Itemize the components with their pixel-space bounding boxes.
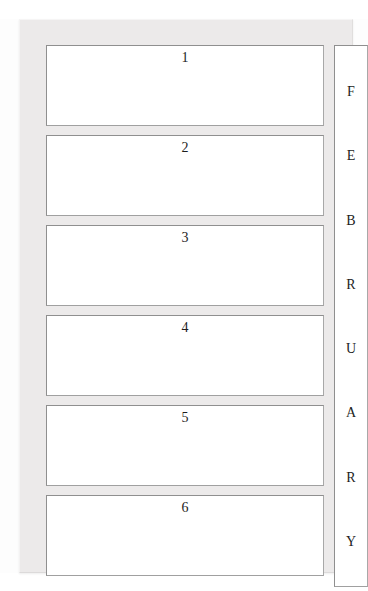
month-letter: R bbox=[335, 277, 367, 293]
month-letter: E bbox=[335, 148, 367, 164]
month-letter: A bbox=[335, 405, 367, 421]
day-number: 5 bbox=[47, 409, 323, 427]
day-box[interactable]: 5 bbox=[46, 405, 324, 486]
scanned-page: 1 2 3 4 5 6 F E B R U A bbox=[0, 0, 368, 591]
page-margin-top bbox=[0, 0, 368, 19]
day-box[interactable]: 4 bbox=[46, 315, 324, 396]
day-box[interactable]: 1 bbox=[46, 45, 324, 126]
month-letter: U bbox=[335, 341, 367, 357]
day-box[interactable]: 2 bbox=[46, 135, 324, 216]
day-box[interactable]: 6 bbox=[46, 495, 324, 576]
month-letter: B bbox=[335, 213, 367, 229]
day-number: 2 bbox=[47, 139, 323, 157]
planner-frame: 1 2 3 4 5 6 F E B R U A bbox=[19, 19, 353, 573]
month-letter: F bbox=[335, 84, 367, 100]
month-letter: R bbox=[335, 470, 367, 486]
month-letter-strip: F E B R U A R Y bbox=[334, 45, 368, 587]
day-box[interactable]: 3 bbox=[46, 225, 324, 306]
month-letter: Y bbox=[335, 534, 367, 550]
day-number: 4 bbox=[47, 319, 323, 337]
day-number: 1 bbox=[47, 49, 323, 67]
day-number: 6 bbox=[47, 499, 323, 517]
day-number: 3 bbox=[47, 229, 323, 247]
day-box-column: 1 2 3 4 5 6 bbox=[46, 45, 324, 587]
